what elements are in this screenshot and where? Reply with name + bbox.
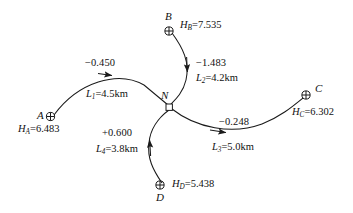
- height-label-C: HC=6.302: [292, 107, 334, 118]
- height-subscript-A: A: [26, 128, 30, 136]
- length-value-L4: =3.8km: [105, 143, 137, 154]
- route-path-L2: [170, 33, 187, 105]
- benchmark-symbol-B: [165, 27, 173, 35]
- height-diff-label-L1: −0.450: [85, 58, 115, 69]
- length-symbol-L3: L: [212, 141, 218, 152]
- length-symbol-L4: L: [96, 143, 102, 154]
- length-value-L3: =5.0km: [221, 141, 253, 152]
- height-symbol-B: H: [180, 19, 188, 30]
- route-arrow-L1: [98, 74, 112, 76]
- benchmark-symbol-C: [302, 91, 310, 99]
- route-arrow-L4: [150, 140, 151, 156]
- benchmark-symbol-A: [46, 112, 54, 120]
- length-subscript-L1: 1: [92, 93, 96, 101]
- leveling-network-diagram: A B C D N HA=6.483 HB=7.535 HC=6.302 HD=…: [0, 0, 353, 213]
- length-subscript-L4: 4: [102, 148, 106, 156]
- point-label-A: A: [37, 110, 44, 121]
- height-value-C: =6.302: [304, 106, 334, 117]
- length-label-L1: L1=4.5km: [86, 89, 128, 100]
- height-symbol-D: H: [172, 178, 180, 189]
- length-value-L1: =4.5km: [95, 88, 127, 99]
- junction-symbol-N: [166, 104, 172, 110]
- length-label-L2: L2=4.2km: [196, 73, 238, 84]
- length-value-L2: =4.2km: [205, 72, 237, 83]
- height-subscript-B: B: [188, 24, 192, 32]
- height-diff-label-L4: +0.600: [102, 128, 132, 139]
- point-label-B: B: [165, 11, 172, 22]
- length-symbol-L1: L: [86, 88, 92, 99]
- height-value-A: =6.483: [30, 123, 60, 134]
- route-arrow-L3: [210, 130, 226, 133]
- length-subscript-L2: 2: [202, 77, 206, 85]
- height-symbol-A: H: [18, 123, 26, 134]
- point-label-N: N: [161, 90, 168, 101]
- height-symbol-C: H: [292, 106, 300, 117]
- height-subscript-D: D: [180, 183, 185, 191]
- height-label-D: HD=5.438: [172, 179, 214, 190]
- height-diff-label-L2: −1.483: [196, 58, 226, 69]
- length-subscript-L3: 3: [218, 146, 222, 154]
- length-label-L4: L4=3.8km: [96, 144, 138, 155]
- height-value-B: =7.535: [192, 19, 222, 30]
- route-path-L4: [149, 110, 169, 183]
- height-subscript-C: C: [300, 111, 305, 119]
- height-value-D: =5.438: [185, 178, 215, 189]
- benchmark-symbol-D: [156, 181, 164, 189]
- point-label-D: D: [156, 192, 164, 203]
- length-label-L3: L3=5.0km: [212, 142, 254, 153]
- height-label-A: HA=6.483: [18, 124, 60, 135]
- height-label-B: HB=7.535: [180, 20, 222, 31]
- length-symbol-L2: L: [196, 72, 202, 83]
- height-diff-label-L3: −0.248: [219, 117, 249, 128]
- point-label-C: C: [315, 83, 322, 94]
